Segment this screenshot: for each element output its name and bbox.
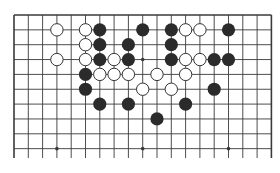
black-stone xyxy=(93,98,106,111)
black-stone xyxy=(93,53,106,66)
star-point xyxy=(227,147,231,151)
black-stone xyxy=(165,53,178,66)
white-stone xyxy=(79,39,91,51)
white-stone xyxy=(179,53,191,65)
white-stone xyxy=(194,53,206,65)
black-stone xyxy=(222,23,235,36)
white-stone xyxy=(79,53,91,65)
black-stone xyxy=(150,112,163,125)
black-stone xyxy=(79,83,92,96)
star-point xyxy=(141,58,145,62)
white-stone xyxy=(137,83,149,95)
star-point xyxy=(55,147,59,151)
white-stone xyxy=(122,68,134,80)
black-stone xyxy=(122,53,135,66)
white-stone xyxy=(151,68,163,80)
white-stone xyxy=(51,53,63,65)
black-stone xyxy=(165,38,178,51)
white-stone xyxy=(51,24,63,36)
black-stone xyxy=(208,83,221,96)
white-stone xyxy=(108,53,120,65)
black-stone xyxy=(222,53,235,66)
white-stone xyxy=(179,68,191,80)
white-stone xyxy=(179,24,191,36)
white-stone xyxy=(79,24,91,36)
white-stone xyxy=(165,83,177,95)
black-stone xyxy=(122,38,135,51)
star-point xyxy=(141,147,145,151)
black-stone xyxy=(122,98,135,111)
white-stone xyxy=(194,24,206,36)
white-stone xyxy=(94,68,106,80)
black-stone xyxy=(93,38,106,51)
black-stone xyxy=(136,23,149,36)
white-stone xyxy=(108,68,120,80)
black-stone xyxy=(179,98,192,111)
go-board xyxy=(0,0,280,173)
black-stone xyxy=(208,53,221,66)
black-stone xyxy=(165,23,178,36)
black-stone xyxy=(93,23,106,36)
black-stone xyxy=(79,68,92,81)
